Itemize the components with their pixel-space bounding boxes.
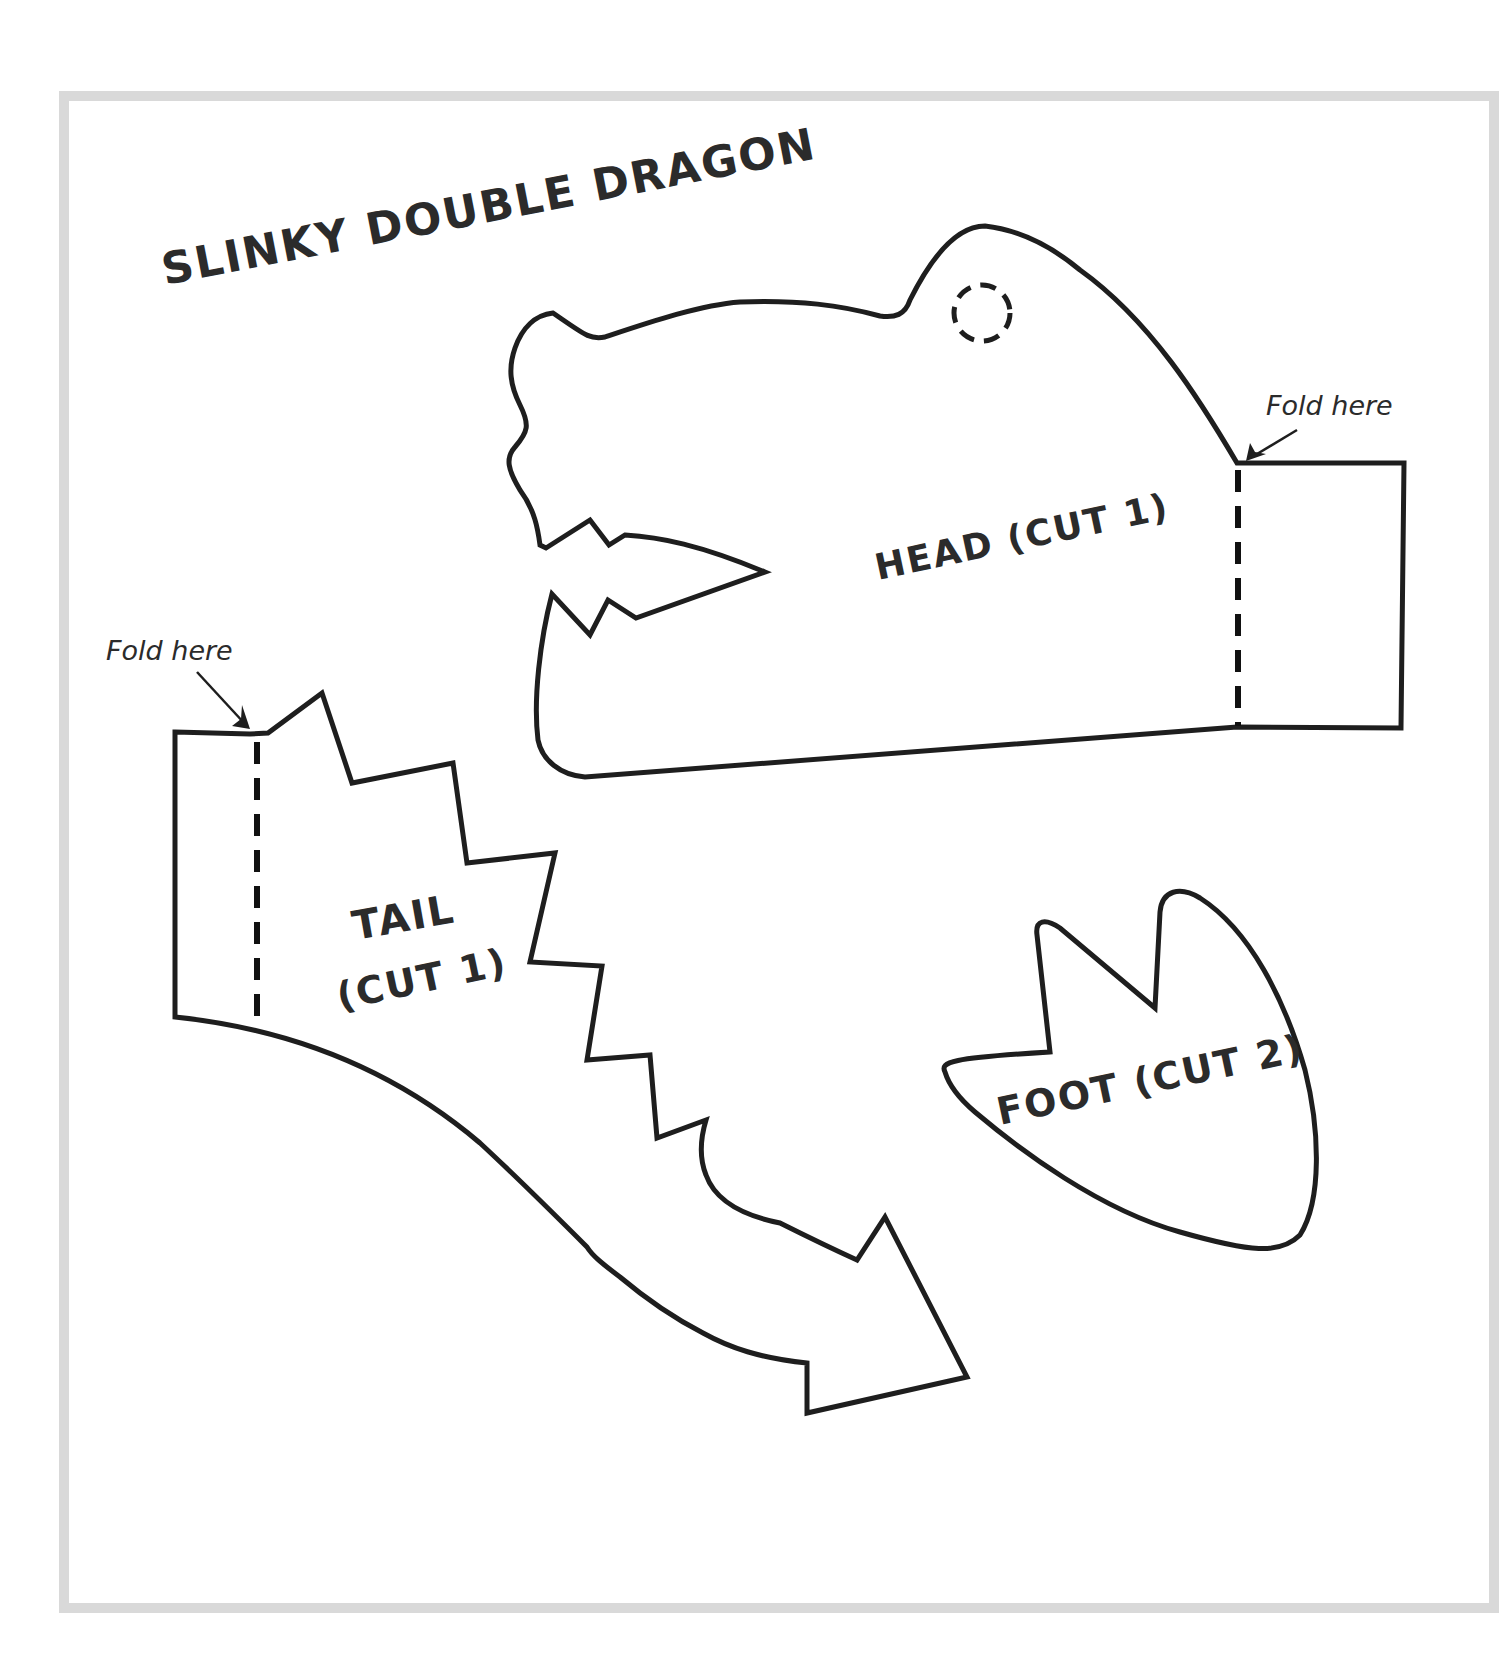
head-fold-arrow-icon	[1246, 430, 1297, 461]
tail-fold-label: Fold here	[106, 635, 233, 666]
page-title: SLINKY DOUBLE DRAGON	[157, 118, 820, 295]
template-sheet: SLINKY DOUBLE DRAGON HEAD (CUT 1) Fold h…	[0, 0, 1504, 1673]
head-fold-label: Fold here	[1266, 390, 1393, 421]
tail-fold-arrow-icon	[197, 672, 250, 729]
head-piece: HEAD (CUT 1) Fold here	[509, 226, 1404, 777]
tail-outline	[175, 693, 967, 1413]
foot-piece: FOOT (CUT 2)	[944, 891, 1316, 1248]
